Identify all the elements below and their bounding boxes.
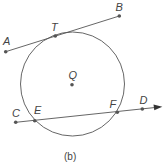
figure-caption: (b) xyxy=(64,151,76,162)
label-q: Q xyxy=(69,69,78,81)
geometry-diagram: A B T Q C E F D (b) xyxy=(0,0,163,163)
tangent-line-ab xyxy=(6,16,120,52)
label-t: T xyxy=(51,21,59,33)
label-f: F xyxy=(110,98,118,110)
point-q xyxy=(70,83,74,87)
point-e xyxy=(33,119,37,123)
point-d xyxy=(141,107,145,111)
label-b: B xyxy=(116,1,123,13)
point-b xyxy=(118,14,122,18)
point-f xyxy=(116,111,120,115)
point-t xyxy=(54,34,58,38)
label-e: E xyxy=(34,104,42,116)
label-d: D xyxy=(140,94,148,106)
label-c: C xyxy=(12,107,20,119)
label-a: A xyxy=(2,35,10,47)
point-a xyxy=(4,50,8,54)
arrowhead-icon xyxy=(154,105,163,111)
point-c xyxy=(14,121,18,125)
